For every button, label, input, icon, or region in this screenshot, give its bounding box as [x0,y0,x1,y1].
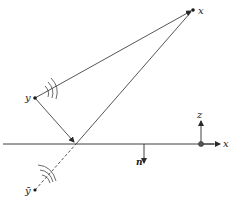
image-source-point [33,188,36,191]
receiver-point [191,8,195,12]
direct-path [35,11,191,98]
reflected-path [76,12,191,144]
receiver-label: x [198,5,204,16]
z-axis-label: z [196,109,203,120]
source-label: y [24,92,31,103]
normal-label: n [136,157,143,167]
incident-path [35,98,74,142]
reflection-diagram: x y ȳ n z x [0,0,233,203]
x-axis-label: x [223,138,229,149]
origin-marker [199,142,204,147]
source-point [33,96,37,100]
image-source-label: ȳ [24,185,31,196]
image-wave-icon [38,165,56,183]
image-path-dashed [35,144,76,190]
source-wave-icon [45,78,57,99]
